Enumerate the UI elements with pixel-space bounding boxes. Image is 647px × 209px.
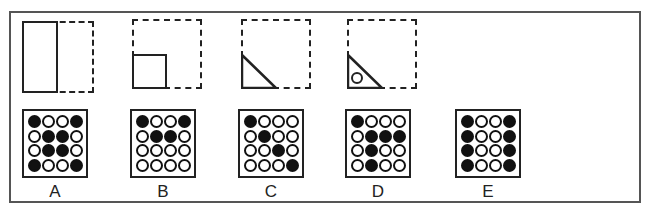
- option-c-grid[interactable]: [238, 109, 304, 178]
- empty-circle-icon: [70, 144, 83, 157]
- empty-circle-icon: [475, 159, 488, 172]
- option-label[interactable]: E: [455, 182, 521, 202]
- filled-circle-icon: [365, 159, 378, 172]
- empty-circle-icon: [351, 159, 364, 172]
- filled-circle-icon: [461, 159, 474, 172]
- empty-circle-icon: [258, 115, 271, 128]
- empty-circle-icon: [489, 159, 502, 172]
- empty-circle-icon: [393, 144, 406, 157]
- filled-circle-icon: [136, 115, 149, 128]
- empty-circle-icon: [56, 159, 69, 172]
- filled-circle-icon: [28, 115, 41, 128]
- empty-circle-icon: [379, 115, 392, 128]
- empty-circle-icon: [351, 144, 364, 157]
- empty-circle-icon: [489, 115, 502, 128]
- filled-circle-icon: [150, 130, 163, 143]
- filled-circle-icon: [461, 144, 474, 157]
- empty-circle-icon: [475, 115, 488, 128]
- empty-circle-icon: [272, 130, 285, 143]
- empty-circle-icon: [379, 159, 392, 172]
- filled-circle-icon: [365, 144, 378, 157]
- option-label[interactable]: B: [130, 182, 196, 202]
- solid-triangle-with-circle-shape: [347, 19, 417, 89]
- circle-icon: [352, 73, 362, 83]
- empty-circle-icon: [244, 159, 257, 172]
- empty-circle-icon: [70, 130, 83, 143]
- empty-circle-icon: [258, 144, 271, 157]
- solid-rectangle-shape: [22, 21, 58, 93]
- empty-circle-icon: [272, 159, 285, 172]
- empty-circle-icon: [178, 144, 191, 157]
- empty-circle-icon: [150, 115, 163, 128]
- option-e-grid[interactable]: [455, 109, 521, 178]
- empty-circle-icon: [475, 144, 488, 157]
- filled-circle-icon: [461, 115, 474, 128]
- option-label[interactable]: C: [238, 182, 304, 202]
- filled-circle-icon: [351, 115, 364, 128]
- empty-circle-icon: [393, 115, 406, 128]
- empty-circle-icon: [164, 159, 177, 172]
- filled-circle-icon: [244, 115, 257, 128]
- filled-circle-icon: [503, 144, 516, 157]
- filled-circle-icon: [164, 130, 177, 143]
- empty-circle-icon: [475, 130, 488, 143]
- filled-circle-icon: [70, 159, 83, 172]
- empty-circle-icon: [136, 144, 149, 157]
- empty-circle-icon: [178, 130, 191, 143]
- sequence-panel-1: [22, 21, 94, 93]
- option-d-grid[interactable]: [345, 109, 411, 178]
- empty-circle-icon: [150, 159, 163, 172]
- empty-circle-icon: [178, 159, 191, 172]
- empty-circle-icon: [42, 115, 55, 128]
- empty-circle-icon: [136, 130, 149, 143]
- filled-circle-icon: [365, 130, 378, 143]
- filled-circle-icon: [42, 144, 55, 157]
- empty-circle-icon: [42, 159, 55, 172]
- filled-circle-icon: [503, 130, 516, 143]
- empty-circle-icon: [150, 144, 163, 157]
- empty-circle-icon: [286, 130, 299, 143]
- sequence-panel-2: [132, 19, 202, 89]
- filled-circle-icon: [286, 159, 299, 172]
- sequence-panel-4: [347, 19, 417, 89]
- empty-circle-icon: [286, 144, 299, 157]
- empty-circle-icon: [244, 130, 257, 143]
- empty-circle-icon: [393, 159, 406, 172]
- option-label[interactable]: A: [22, 182, 88, 202]
- filled-circle-icon: [503, 159, 516, 172]
- empty-circle-icon: [379, 144, 392, 157]
- filled-circle-icon: [379, 130, 392, 143]
- option-a-grid[interactable]: [22, 109, 88, 178]
- empty-circle-icon: [489, 144, 502, 157]
- solid-triangle-shape: [241, 19, 311, 89]
- solid-square-shape: [132, 54, 167, 89]
- filled-circle-icon: [56, 144, 69, 157]
- empty-circle-icon: [28, 130, 41, 143]
- empty-circle-icon: [28, 144, 41, 157]
- empty-circle-icon: [164, 144, 177, 157]
- filled-circle-icon: [461, 130, 474, 143]
- question-frame: [9, 11, 641, 203]
- empty-circle-icon: [272, 115, 285, 128]
- option-b-grid[interactable]: [130, 109, 196, 178]
- empty-circle-icon: [258, 159, 271, 172]
- filled-circle-icon: [503, 115, 516, 128]
- empty-circle-icon: [244, 144, 257, 157]
- empty-circle-icon: [489, 130, 502, 143]
- empty-circle-icon: [286, 115, 299, 128]
- empty-circle-icon: [365, 115, 378, 128]
- option-label[interactable]: D: [345, 182, 411, 202]
- filled-circle-icon: [178, 115, 191, 128]
- filled-circle-icon: [272, 144, 285, 157]
- empty-circle-icon: [164, 115, 177, 128]
- filled-circle-icon: [28, 159, 41, 172]
- empty-circle-icon: [136, 159, 149, 172]
- filled-circle-icon: [42, 130, 55, 143]
- filled-circle-icon: [393, 130, 406, 143]
- filled-circle-icon: [70, 115, 83, 128]
- empty-circle-icon: [56, 115, 69, 128]
- filled-circle-icon: [56, 130, 69, 143]
- empty-circle-icon: [351, 130, 364, 143]
- filled-circle-icon: [258, 130, 271, 143]
- sequence-panel-3: [241, 19, 311, 89]
